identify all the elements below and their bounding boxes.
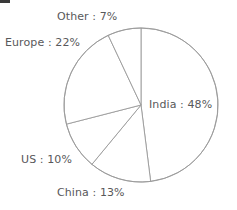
pie-chart: Other : 7% Europe : 22% India : 48% US :… <box>0 0 237 210</box>
pie-label-us: US : 10% <box>21 153 72 166</box>
pie-label-china: China : 13% <box>57 186 125 199</box>
pie-label-other: Other : 7% <box>57 10 117 23</box>
pie-label-india: India : 48% <box>149 98 212 111</box>
pie-label-europe: Europe : 22% <box>5 36 80 49</box>
